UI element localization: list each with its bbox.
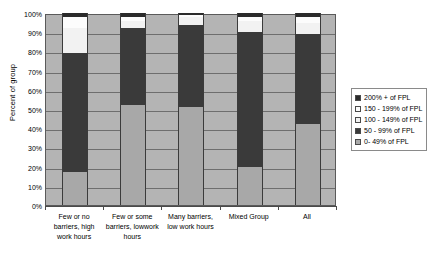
bar-segment[interactable]	[120, 13, 146, 17]
x-tick	[220, 206, 221, 210]
y-tick-label: 90%	[14, 30, 42, 37]
y-tick-label: 100%	[14, 11, 42, 18]
bar-segment[interactable]	[237, 167, 263, 205]
legend: 200% + of FPL150 - 199% of FPL100 - 149%…	[351, 88, 427, 151]
bar-segment[interactable]	[237, 13, 263, 17]
bar-group[interactable]	[221, 15, 279, 205]
bar-segment[interactable]	[295, 34, 321, 124]
x-tick	[103, 206, 104, 210]
legend-swatch	[355, 117, 361, 123]
y-tick-label: 20%	[14, 164, 42, 171]
bar-segment[interactable]	[62, 53, 88, 172]
legend-item[interactable]: 150 - 199% of FPL	[355, 103, 422, 114]
legend-label: 50 - 99% of FPL	[364, 127, 415, 134]
bar-segment[interactable]	[295, 23, 321, 35]
bar-segment[interactable]	[120, 17, 146, 21]
y-tick-label: 10%	[14, 183, 42, 190]
bar-group[interactable]	[279, 15, 337, 205]
bar-segment[interactable]	[62, 17, 88, 29]
bar-stack[interactable]	[295, 15, 321, 205]
bar-stack[interactable]	[62, 15, 88, 205]
bar-stack[interactable]	[237, 15, 263, 205]
y-tick-label: 30%	[14, 145, 42, 152]
x-axis-tick-labels: Few or nobarriers, highwork hoursFew or …	[45, 212, 336, 258]
bar-segment[interactable]	[295, 13, 321, 17]
legend-swatch	[355, 95, 361, 101]
bars-layer	[46, 15, 335, 205]
legend-swatch	[355, 139, 361, 145]
legend-item[interactable]: 0- 49% of FPL	[355, 136, 422, 147]
stacked-bar-chart: Percent of group 100%90%80%70%60%50%40%3…	[0, 0, 438, 259]
y-tick-label: 0%	[14, 203, 42, 210]
bar-segment[interactable]	[178, 15, 204, 17]
y-tick-label: 50%	[14, 107, 42, 114]
bar-stack[interactable]	[120, 15, 146, 205]
bar-segment[interactable]	[120, 28, 146, 105]
bar-segment[interactable]	[62, 13, 88, 17]
bar-segment[interactable]	[237, 32, 263, 166]
bar-group[interactable]	[104, 15, 162, 205]
bar-group[interactable]	[162, 15, 220, 205]
x-tick	[45, 206, 46, 210]
y-tick-label: 70%	[14, 68, 42, 75]
legend-item[interactable]: 50 - 99% of FPL	[355, 125, 422, 136]
bar-stack[interactable]	[178, 15, 204, 205]
bar-group[interactable]	[46, 15, 104, 205]
legend-swatch	[355, 128, 361, 134]
plot-area	[45, 14, 336, 206]
x-tick	[278, 206, 279, 210]
legend-label: 150 - 199% of FPL	[364, 105, 422, 112]
x-tick	[336, 206, 337, 210]
y-tick-label: 40%	[14, 126, 42, 133]
legend-item[interactable]: 200% + of FPL	[355, 92, 422, 103]
x-tick	[161, 206, 162, 210]
bar-segment[interactable]	[178, 17, 204, 25]
x-axis-line	[45, 206, 336, 207]
y-tick-label: 60%	[14, 87, 42, 94]
bar-segment[interactable]	[120, 105, 146, 205]
bar-segment[interactable]	[62, 28, 88, 53]
legend-label: 200% + of FPL	[364, 94, 411, 101]
bar-segment[interactable]	[295, 124, 321, 205]
bar-segment[interactable]	[178, 13, 204, 15]
legend-label: 100 - 149% of FPL	[364, 116, 422, 123]
y-axis-tick-labels: 100%90%80%70%60%50%40%30%20%10%0%	[14, 14, 42, 206]
bar-segment[interactable]	[62, 172, 88, 205]
x-tick-label: All	[272, 212, 342, 222]
bar-segment[interactable]	[178, 25, 204, 108]
legend-label: 0- 49% of FPL	[364, 138, 409, 145]
y-tick-label: 80%	[14, 49, 42, 56]
legend-swatch	[355, 106, 361, 112]
bar-segment[interactable]	[178, 107, 204, 205]
legend-item[interactable]: 100 - 149% of FPL	[355, 114, 422, 125]
bar-segment[interactable]	[237, 21, 263, 33]
bar-segment[interactable]	[237, 17, 263, 21]
bar-segment[interactable]	[295, 17, 321, 23]
bar-segment[interactable]	[120, 21, 146, 29]
